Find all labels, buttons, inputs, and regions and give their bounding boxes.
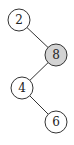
tree-diagram: 2846 — [0, 0, 74, 145]
node-label: 6 — [52, 115, 60, 129]
tree-node-2: 2 — [8, 9, 30, 31]
tree-node-6: 6 — [45, 111, 67, 133]
tree-node-4: 4 — [11, 77, 33, 99]
nodes: 2846 — [8, 9, 67, 133]
edge-2-8 — [27, 28, 48, 48]
node-label: 2 — [15, 13, 23, 27]
node-label: 4 — [18, 81, 26, 95]
edge-4-6 — [30, 96, 48, 114]
tree-svg: 2846 — [0, 0, 74, 145]
edges — [27, 28, 48, 115]
node-label: 8 — [52, 48, 60, 62]
tree-node-8: 8 — [45, 44, 67, 66]
edge-8-4 — [30, 63, 48, 81]
